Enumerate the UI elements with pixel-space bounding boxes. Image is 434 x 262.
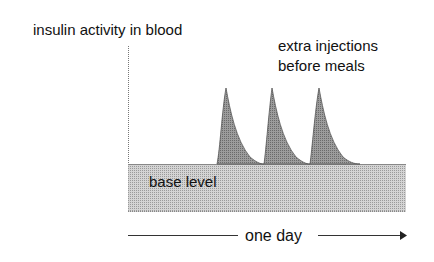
arrow-head-icon (400, 231, 407, 240)
x-axis-label: one day (245, 227, 302, 245)
base-level-label: base level (149, 173, 217, 191)
chart-graphic (0, 0, 434, 262)
injection-peaks (217, 88, 360, 164)
